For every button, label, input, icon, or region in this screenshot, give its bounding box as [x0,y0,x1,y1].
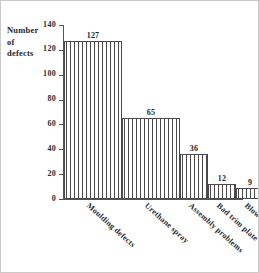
bar-value-label: 127 [65,31,121,40]
y-axis-tick-label: 20 [47,169,56,178]
y-axis-tick-label: 100 [43,69,56,78]
y-axis-title: Number of defects [7,25,53,60]
bar: 127 [64,41,122,199]
bar-value-label: 9 [237,178,259,187]
bar-value-label: 65 [123,108,179,117]
bar-value-label: 36 [181,144,207,153]
y-axis-tick-label: 60 [47,119,56,128]
y-axis-tick: 120 [59,50,63,51]
y-axis-tick-label: 0 [52,194,56,203]
x-axis-line [63,199,243,200]
bar: 12 [208,184,236,199]
x-axis-category-label: Urethane spray [143,201,190,245]
y-axis-tick-label: 40 [47,144,56,153]
y-axis-tick: 140 [59,25,63,26]
plot-area: 020406080100120140 127653612911 Moulding… [63,25,236,199]
bar: 36 [180,154,208,199]
y-axis-tick: 20 [59,174,63,175]
y-axis-tick: 60 [59,124,63,125]
x-axis-category-label: Moulding defects [85,201,137,249]
y-axis-tick-label: 140 [43,20,56,29]
y-axis-tick: 40 [59,149,63,150]
y-axis-tick: 80 [59,100,63,101]
y-axis-tick-label: 80 [47,94,56,103]
y-axis-tick: 100 [59,75,63,76]
bar: 65 [122,118,180,199]
y-axis-tick: 0 [59,199,63,200]
y-axis-tick-label: 120 [43,44,56,53]
chart-figure: Number of defects 020406080100120140 127… [0,0,259,273]
bar-value-label: 12 [209,174,235,183]
bar: 9 [236,188,259,199]
